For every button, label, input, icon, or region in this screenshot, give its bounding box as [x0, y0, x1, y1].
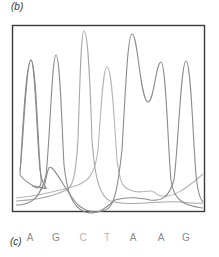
trace-a-left: [20, 60, 41, 188]
trace-g: [16, 55, 203, 213]
base-label-1: A: [27, 232, 34, 243]
base-label-7: G: [182, 232, 190, 243]
base-label-3: C: [79, 232, 86, 243]
chromatogram-chart: A G C T A A G: [0, 0, 219, 257]
base-label-6: A: [158, 232, 165, 243]
trace-c: [16, 31, 203, 203]
trace-a: [20, 34, 203, 212]
base-label-5: A: [130, 232, 137, 243]
base-label-2: G: [52, 232, 60, 243]
base-label-4: T: [104, 232, 110, 243]
trace-t: [16, 67, 203, 198]
panel-label-c: (c): [10, 236, 22, 247]
